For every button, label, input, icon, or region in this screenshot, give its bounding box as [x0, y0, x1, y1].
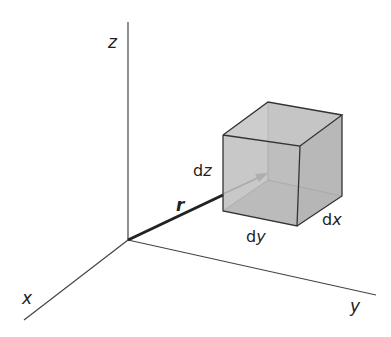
y-axis-label: y [349, 296, 361, 316]
dy-label: dy [246, 227, 266, 246]
x-axis [24, 240, 128, 320]
volume-element-diagram: z x y r dz dy dx [0, 0, 391, 337]
dz-label: dz [193, 161, 212, 180]
cube-front-face [223, 135, 300, 226]
volume-element-cube [223, 102, 342, 226]
dx-label: dx [322, 210, 342, 229]
y-axis [128, 240, 376, 295]
z-axis-label: z [107, 32, 118, 52]
x-axis-label: x [21, 288, 33, 308]
